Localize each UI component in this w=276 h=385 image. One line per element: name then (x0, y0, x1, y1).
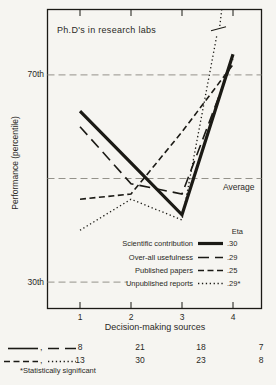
medium-dash-line-sample (4, 357, 38, 366)
count-value: 30 (135, 355, 144, 365)
x-tick-label: 4 (225, 312, 241, 322)
series-solid-thick (80, 54, 233, 215)
count-value: 8 (259, 355, 264, 365)
x-tick-label: 3 (174, 312, 190, 322)
legend-series-label: Over-all usefulness (129, 253, 193, 262)
series-medium-dash (80, 65, 233, 200)
count-row-symbol (4, 357, 38, 366)
ref-label-30th: 30th (18, 277, 44, 287)
legend-sample (198, 253, 223, 262)
count-value: 23 (196, 355, 205, 365)
count-value: 7 (259, 342, 264, 352)
legend-row: Unpublished reports.29* (70, 277, 246, 290)
footnote: *Statistically significant (20, 366, 96, 375)
legend-row: Over-all usefulness.29 (70, 250, 246, 263)
x-tick-label: 2 (123, 312, 139, 322)
count-value: 21 (135, 342, 144, 352)
legend-row: Published papers.25 (70, 264, 246, 277)
scale-break-mark (211, 27, 226, 31)
solid-line-sample (8, 344, 38, 353)
legend-sample (198, 266, 223, 275)
count-row-symbol (48, 357, 76, 366)
comma: , (40, 342, 43, 352)
legend-sample (198, 239, 223, 248)
long-dash-line-sample (48, 344, 76, 353)
count-row-symbol (8, 344, 38, 353)
legend-sample (198, 279, 223, 288)
count-row-symbol (48, 344, 76, 353)
count-row: ,821187 (0, 342, 276, 355)
x-axis-label: Decision-making sources (105, 322, 206, 332)
legend-series-label: Published papers (135, 266, 193, 275)
legend-row: Scientific contribution.30 (70, 237, 246, 250)
legend-eta-header: Eta (70, 227, 246, 236)
legend-series-label: Unpublished reports (126, 279, 193, 288)
medium-dash-line-sample (198, 266, 223, 275)
dotted-line-sample (198, 279, 223, 288)
legend-eta-value: .30 (227, 239, 246, 248)
ref-label-average: Average (223, 182, 255, 192)
series-dotted-offscale (220, 9, 222, 26)
figure-phd-research-labs: Ph.D's in research labs Performance (per… (0, 0, 276, 385)
count-value: 13 (75, 355, 84, 365)
legend-eta-value: .25 (227, 266, 246, 275)
x-tick-label: 1 (72, 312, 88, 322)
count-value: 8 (78, 342, 83, 352)
solid-thick-line-sample (198, 239, 223, 248)
ref-label-70th: 70th (18, 69, 44, 79)
count-value: 18 (196, 342, 205, 352)
chart-title: Ph.D's in research labs (57, 25, 156, 35)
long-dash-line-sample (198, 253, 223, 262)
legend-series-label: Scientific contribution (122, 239, 193, 248)
comma: , (40, 355, 43, 365)
y-axis-label: Performance (percentile) (10, 116, 20, 210)
legend-eta-value: .29* (227, 279, 246, 288)
legend: Eta Scientific contribution.30Over-all u… (70, 227, 246, 291)
dotted-line-sample (48, 357, 76, 366)
legend-eta-value: .29 (227, 253, 246, 262)
